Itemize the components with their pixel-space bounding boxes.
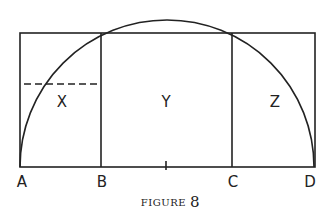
label-x: X: [57, 93, 67, 111]
label-y: Y: [160, 93, 171, 111]
label-c: C: [228, 173, 238, 191]
caption-word: FIGURE: [141, 197, 186, 208]
label-z: Z: [270, 93, 280, 111]
label-b: B: [97, 173, 107, 191]
caption-number: 8: [190, 193, 200, 211]
label-d: D: [304, 173, 316, 191]
label-a: A: [17, 173, 28, 191]
figure-8-diagram: X Y Z A B C D FIGURE 8: [0, 0, 332, 217]
